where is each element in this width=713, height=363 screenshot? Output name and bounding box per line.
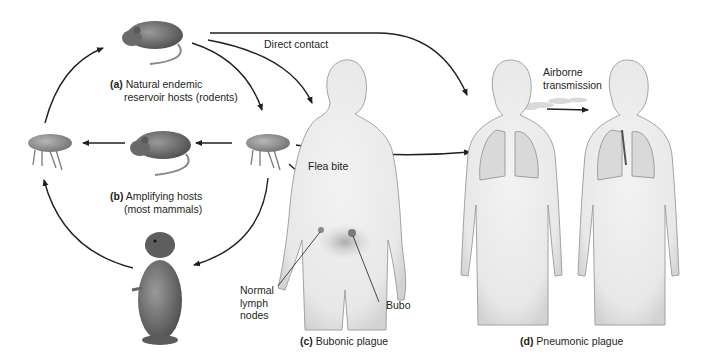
label-direct-contact: Direct contact bbox=[264, 38, 328, 51]
label-text: lymph bbox=[240, 297, 268, 309]
label-normal-lymph-nodes: Normal lymph nodes bbox=[240, 284, 274, 322]
label-amplifying-hosts: (b) Amplifying hosts (most mammals) bbox=[110, 190, 202, 215]
label-text: nodes bbox=[240, 309, 269, 321]
label-flea-bite: Flea bite bbox=[308, 160, 348, 173]
prairie-dog-icon bbox=[132, 232, 182, 345]
label-tag-b: (b) bbox=[110, 190, 123, 202]
label-text: transmission bbox=[543, 79, 602, 91]
label-text: Airborne bbox=[543, 66, 583, 78]
plague-diagram bbox=[0, 0, 713, 363]
label-text: (most mammals) bbox=[110, 203, 202, 215]
flea-icon bbox=[28, 134, 72, 170]
lymph-node-icon bbox=[318, 227, 324, 233]
label-text: Amplifying hosts bbox=[126, 190, 202, 202]
label-natural-endemic-hosts: (a) Natural endemic reservoir hosts (rod… bbox=[110, 78, 238, 103]
caption-bubonic-plague: (c) Bubonic plague bbox=[300, 335, 388, 348]
label-text: Bubonic plague bbox=[316, 335, 388, 347]
label-text: reservoir hosts (rodents) bbox=[110, 91, 238, 103]
airborne-droplets bbox=[522, 98, 587, 111]
label-bubo: Bubo bbox=[386, 299, 411, 312]
groin-shading bbox=[317, 224, 373, 260]
bubo-icon bbox=[348, 229, 356, 237]
flea-icon bbox=[246, 134, 290, 170]
label-text: Normal bbox=[240, 284, 274, 296]
label-text: Natural endemic bbox=[126, 78, 202, 90]
label-airborne-transmission: Airborne transmission bbox=[543, 66, 602, 91]
label-tag-d: (d) bbox=[520, 335, 533, 347]
rat-icon bbox=[122, 21, 183, 64]
label-tag-c: (c) bbox=[300, 335, 313, 347]
caption-pneumonic-plague: (d) Pneumonic plague bbox=[520, 335, 623, 348]
rat-icon bbox=[130, 131, 191, 175]
label-tag-a: (a) bbox=[110, 78, 123, 90]
human-body-icon bbox=[278, 60, 406, 330]
label-text: Pneumonic plague bbox=[536, 335, 623, 347]
